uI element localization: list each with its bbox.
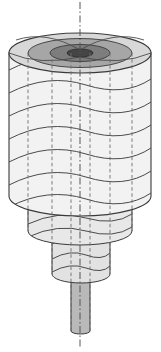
figure-canvas — [0, 0, 161, 352]
rotor-diagram — [0, 0, 161, 352]
